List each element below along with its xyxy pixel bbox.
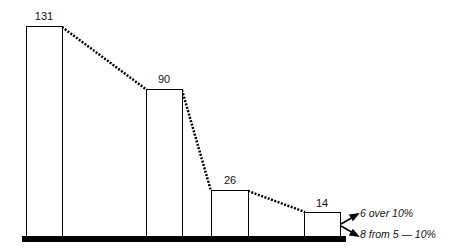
baseline <box>22 236 346 242</box>
bar-1 <box>26 26 63 237</box>
bar-2-value: 90 <box>134 73 194 85</box>
bar-3 <box>211 190 249 237</box>
annotation-bottom: 8 from 5 — 10% <box>360 228 436 240</box>
bar-3-value: 26 <box>200 174 260 186</box>
annotation-top: 6 over 10% <box>360 207 413 219</box>
bar-chart: 131 90 26 14 6 over 10% 8 from 5 — 10% <box>0 0 455 252</box>
bar-4 <box>304 212 341 237</box>
bar-4-value: 14 <box>292 197 352 209</box>
bar-2 <box>146 89 183 237</box>
bar-1-value: 131 <box>14 10 74 22</box>
